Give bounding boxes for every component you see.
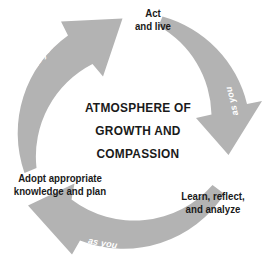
title-line-3: COMPASSION (63, 142, 213, 165)
stage-learn-line-1: Learn, reflect, (170, 190, 256, 203)
stage-act-line-1: Act (124, 7, 181, 20)
stage-label-adopt: Adopt appropriate knowledge and plan (4, 172, 116, 198)
title-line-2: GROWTH AND (63, 119, 213, 142)
stage-learn-line-2: and analyze (170, 203, 256, 216)
stage-adopt-line-1: Adopt appropriate (8, 172, 111, 185)
stage-label-learn: Learn, reflect, and analyze (166, 190, 260, 216)
stage-label-act: Act and live (122, 7, 184, 33)
stage-act-line-2: and live (124, 20, 181, 33)
title-line-1: ATMOSPHERE OF (63, 96, 213, 119)
cycle-diagram: ATMOSPHERE OF GROWTH AND COMPASSION Act … (0, 0, 275, 266)
stage-adopt-line-2: knowledge and plan (8, 185, 111, 198)
page-title: ATMOSPHERE OF GROWTH AND COMPASSION (53, 96, 223, 165)
